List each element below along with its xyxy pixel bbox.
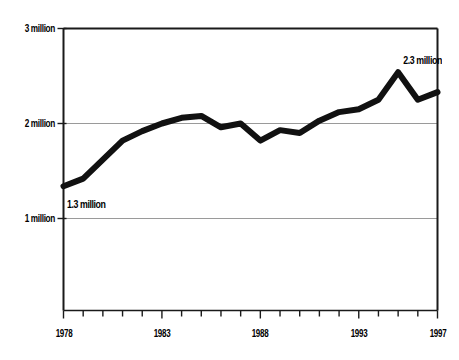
axis-frame-group	[64, 29, 438, 311]
chart-figure: 3 million2 million1 million 197819831988…	[0, 0, 459, 360]
line-chart-canvas	[0, 0, 459, 360]
gridlines-group	[64, 29, 438, 219]
x-axis-label-1983: 1983	[146, 328, 178, 339]
data-line-group	[64, 72, 438, 186]
y-axis-ticks-group	[58, 29, 67, 219]
annotation-end-value: 2.3 million	[403, 54, 442, 66]
x-axis-label-1978: 1978	[48, 328, 80, 339]
y-axis-label-2m: 2 million	[24, 118, 54, 129]
x-axis-label-1997: 1997	[422, 328, 454, 339]
x-axis-label-1988: 1988	[244, 328, 276, 339]
series-1-line	[64, 72, 438, 186]
y-axis-label-1m: 1 million	[24, 213, 54, 224]
annotation-start-value: 1.3 million	[67, 198, 106, 210]
x-axis-ticks-group	[64, 311, 438, 319]
x-axis-label-1993: 1993	[343, 328, 375, 339]
y-axis-label-3m: 3 million	[24, 23, 54, 34]
